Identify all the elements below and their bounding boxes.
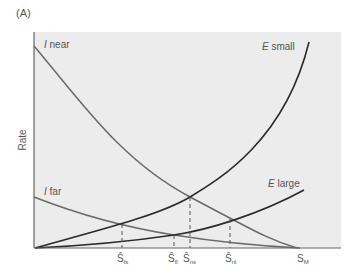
label-e-large: E large: [268, 178, 300, 189]
rate-chart: I near I far E small E large Rate Ŝfs Ŝf…: [0, 0, 353, 274]
plot-area: [34, 32, 341, 248]
y-axis-title: Rate: [17, 129, 28, 151]
marker-s-ns: Ŝns: [183, 252, 196, 265]
marker-s-nl: Ŝnl: [225, 252, 236, 265]
label-i-far: I far: [44, 186, 62, 197]
marker-s-fl: Ŝfl: [168, 252, 178, 265]
marker-s-fs: Ŝfs: [117, 252, 128, 265]
marker-s-max: SM: [297, 253, 309, 265]
label-i-near: I near: [44, 39, 70, 50]
label-e-small: E small: [262, 41, 295, 52]
